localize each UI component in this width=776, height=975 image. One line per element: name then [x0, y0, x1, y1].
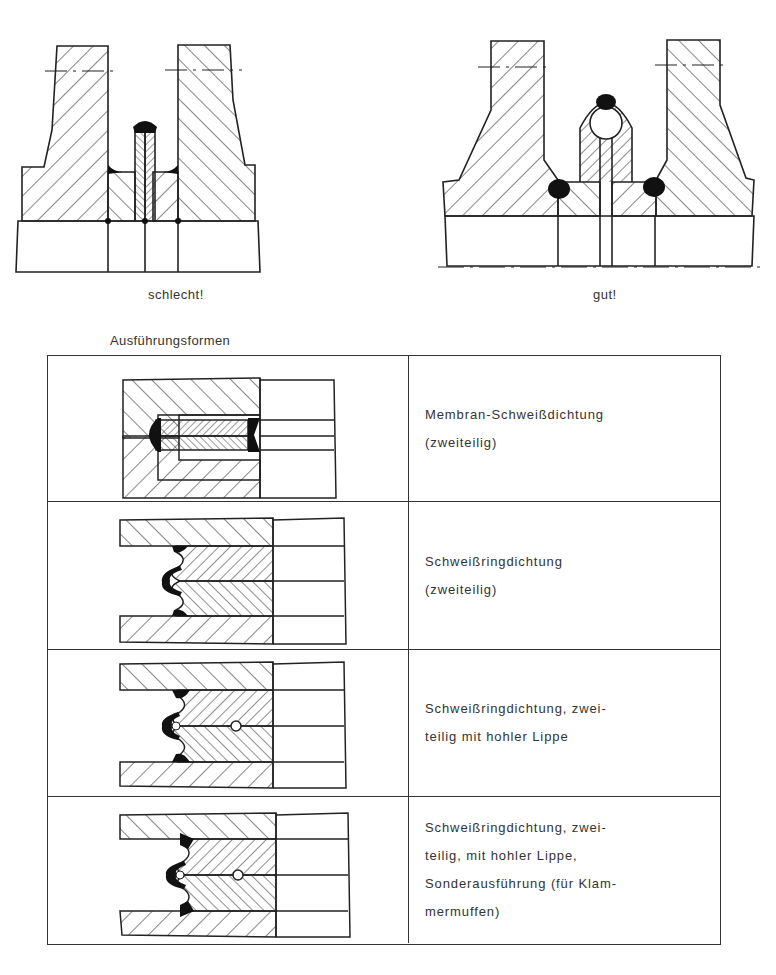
figure-cell	[48, 650, 409, 796]
weld-ring-seal-hollow-lip-drawing	[48, 650, 408, 797]
table-row: Membran-Schweißdichtung (zweiteilig)	[48, 356, 720, 501]
caption-bad: schlecht!	[148, 287, 204, 302]
figure-good-weld	[420, 20, 776, 280]
description-line: Schweißringdichtung, zwei-	[425, 695, 607, 723]
description-cell: Schweißringdichtung, zwei- teilig mit ho…	[409, 650, 720, 796]
figure-cell	[48, 797, 409, 943]
table-row: Schweißringdichtung, zwei- teilig, mit h…	[48, 796, 720, 943]
description-line: mermuffen)	[425, 898, 617, 926]
description-line: Sonderausführung (für Klam-	[425, 870, 617, 898]
description-line: (zweiteilig)	[425, 429, 604, 457]
table-row: Schweißringdichtung (zweiteilig)	[48, 501, 720, 649]
figure-cell	[48, 502, 409, 649]
membrane-weld-seal-drawing	[48, 356, 408, 501]
description-cell: Schweißringdichtung, zwei- teilig, mit h…	[409, 797, 720, 943]
figure-cell	[48, 356, 409, 501]
variants-table: Membran-Schweißdichtung (zweiteilig)	[47, 355, 721, 945]
table-row: Schweißringdichtung, zwei- teilig mit ho…	[48, 649, 720, 796]
description-line: Schweißringdichtung	[425, 548, 563, 576]
caption-good: gut!	[593, 287, 617, 302]
description-cell: Schweißringdichtung (zweiteilig)	[409, 502, 720, 649]
description-line: Membran-Schweißdichtung	[425, 401, 604, 429]
description-line: teilig mit hohler Lippe	[425, 723, 607, 751]
description-line: (zweiteilig)	[425, 576, 563, 604]
weld-ring-seal-drawing	[48, 502, 408, 650]
flange-weld-good-drawing	[420, 20, 776, 280]
figure-bad-weld	[0, 0, 300, 300]
description-cell: Membran-Schweißdichtung (zweiteilig)	[409, 356, 720, 501]
weld-ring-seal-special-clamp-drawing	[48, 797, 408, 944]
description-line: Schweißringdichtung, zwei-	[425, 814, 617, 842]
variants-title: Ausführungsformen	[110, 333, 230, 348]
flange-weld-bad-drawing	[0, 0, 300, 300]
description-line: teilig, mit hohler Lippe,	[425, 842, 617, 870]
